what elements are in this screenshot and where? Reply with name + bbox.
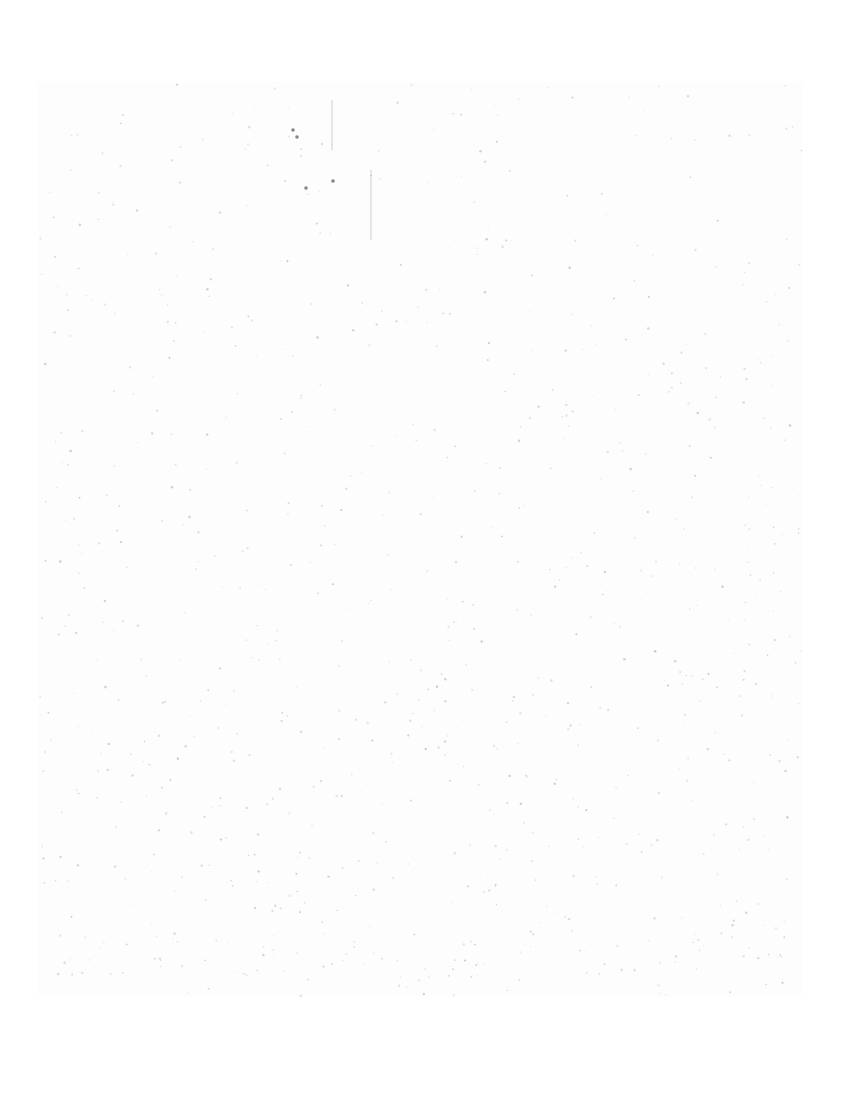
speckle-noise bbox=[38, 82, 802, 997]
scanned-page bbox=[0, 0, 850, 1095]
faded-photo-region bbox=[38, 82, 802, 997]
